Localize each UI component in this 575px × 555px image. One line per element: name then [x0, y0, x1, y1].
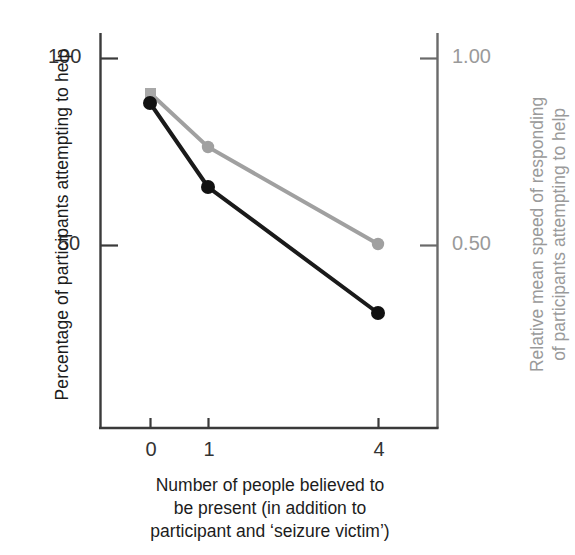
data-point-percentage-4 [371, 306, 385, 320]
series-line-percentage [150, 103, 378, 313]
series-line-speed [150, 93, 378, 244]
data-point-percentage-0 [143, 96, 157, 110]
data-point-percentage-1 [201, 180, 215, 194]
right-axis-title-line1: Relative mean speed of responding [526, 19, 548, 449]
right-axis-title-line2: of participants attempting to help [548, 19, 570, 449]
right-tick-label-0.50: 0.50 [452, 232, 491, 255]
bottom-axis-title-line2: be present (in addition to [50, 497, 490, 520]
chart-figure: 100 50 1.00 0.50 0 1 4 Percentage of par… [0, 0, 575, 555]
data-point-speed-4 [372, 238, 384, 250]
right-tick-label-1.00: 1.00 [452, 45, 491, 68]
left-axis-title: Percentage of participants attempting to… [52, 15, 73, 435]
bottom-tick-label-0: 0 [131, 438, 171, 461]
bottom-axis-title-line1: Number of people believed to [50, 474, 490, 497]
plot-area [0, 0, 575, 555]
bottom-tick-label-1: 1 [189, 438, 229, 461]
bottom-axis-title: Number of people believed to be present … [50, 474, 490, 542]
data-point-speed-1 [202, 141, 214, 153]
bottom-axis-title-line3: participant and ‘seizure victim’) [50, 520, 490, 543]
right-axis-title: Relative mean speed of responding of par… [526, 19, 571, 449]
bottom-tick-label-4: 4 [359, 438, 399, 461]
